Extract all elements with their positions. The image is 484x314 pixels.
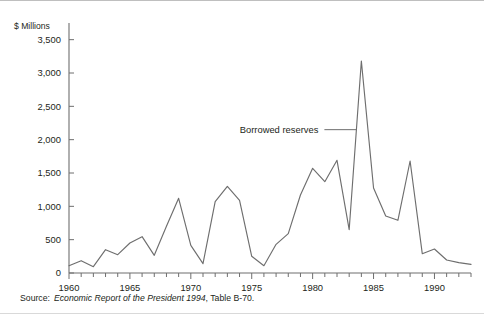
annotation-borrowed-reserves: Borrowed reserves	[240, 124, 357, 135]
source-table-ref: , Table B-70.	[206, 293, 255, 303]
source-note: Source:Economic Report of the President …	[20, 293, 254, 304]
source-publication: Economic Report of the President 1994	[54, 293, 206, 303]
y-tick-label: 2,500	[38, 101, 61, 112]
x-tick-label: 1970	[180, 282, 201, 293]
x-tick-label: 1985	[363, 282, 384, 293]
figure-container: $ Millions 05001,0001,5002,0002,5003,000…	[0, 0, 484, 314]
y-tick-label: 3,500	[38, 34, 61, 45]
y-axis-title: $ Millions	[14, 21, 50, 31]
y-tick-label: 2,000	[38, 134, 61, 145]
x-tick-label: 1980	[302, 282, 323, 293]
x-tick-label: 1975	[241, 282, 262, 293]
y-tick-label: 1,500	[38, 167, 61, 178]
y-tick-label: 500	[45, 234, 61, 245]
annotation-label: Borrowed reserves	[240, 124, 319, 135]
x-tick-label: 1990	[424, 282, 445, 293]
y-tick-label: 3,000	[38, 67, 61, 78]
source-label: Source:	[20, 293, 50, 303]
x-tick-label: 1965	[119, 282, 140, 293]
x-axis-ticks: 1960196519701975198019851990	[59, 273, 471, 293]
series-borrowed-reserves	[69, 61, 471, 267]
chart-axes	[69, 23, 471, 273]
borrowed-reserves-line-chart: $ Millions 05001,0001,5002,0002,5003,000…	[0, 1, 484, 314]
x-tick-label: 1960	[59, 282, 80, 293]
y-tick-label: 1,000	[38, 201, 61, 212]
y-tick-label: 0	[56, 267, 61, 278]
data-series-group	[69, 61, 471, 267]
